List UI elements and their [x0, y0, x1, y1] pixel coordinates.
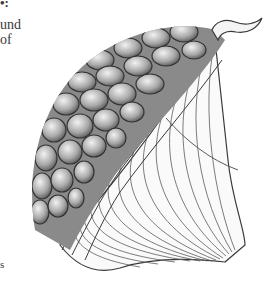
cross-section-illustration: [0, 0, 272, 284]
curled-tip: [212, 18, 262, 40]
